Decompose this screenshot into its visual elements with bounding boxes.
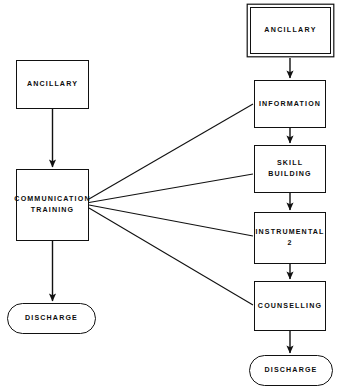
node-information[interactable]: INFORMATION xyxy=(254,80,326,128)
flowchart-canvas: ANCILLARY COMMUNICATION TRAINING DISCHAR… xyxy=(0,0,341,389)
node-left-ancillary[interactable]: ANCILLARY xyxy=(16,60,89,109)
edge-communication-training-to-counselling xyxy=(89,208,253,305)
node-left-discharge[interactable]: DISCHARGE xyxy=(7,303,96,334)
node-right-ancillary[interactable]: ANCILLARY xyxy=(250,7,331,54)
node-left-ancillary-label: ANCILLARY xyxy=(17,79,88,90)
node-communication-training-label: COMMUNICATION TRAINING xyxy=(14,194,90,216)
node-instrumental-2[interactable]: INSTRUMENTAL 2 xyxy=(254,212,326,264)
node-information-label: INFORMATION xyxy=(255,99,325,110)
node-counselling[interactable]: COUNSELLING xyxy=(254,281,326,331)
node-left-discharge-label: DISCHARGE xyxy=(8,313,95,324)
node-right-ancillary-label: ANCILLARY xyxy=(251,25,330,36)
node-skill-building[interactable]: SKILL BUILDING xyxy=(254,145,326,193)
node-instrumental-2-label: INSTRUMENTAL 2 xyxy=(255,227,325,249)
edge-communication-training-to-instrumental-2 xyxy=(89,205,253,236)
edge-communication-training-to-skill-building xyxy=(89,174,253,203)
edge-communication-training-to-information xyxy=(89,104,253,199)
node-right-discharge[interactable]: DISCHARGE xyxy=(249,355,333,386)
node-communication-training[interactable]: COMMUNICATION TRAINING xyxy=(16,169,89,241)
node-right-discharge-label: DISCHARGE xyxy=(250,365,332,376)
node-skill-building-label: SKILL BUILDING xyxy=(255,158,325,180)
node-counselling-label: COUNSELLING xyxy=(255,301,325,312)
